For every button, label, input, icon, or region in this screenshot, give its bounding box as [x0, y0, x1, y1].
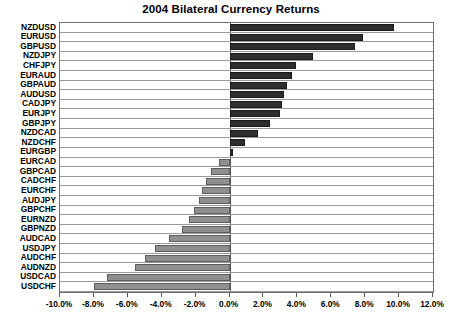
- bar-cadchf: [206, 178, 230, 185]
- currency-returns-chart: 2004 Bilateral Currency Returns NZDUSDEU…: [0, 0, 462, 328]
- bar-audjpy: [199, 197, 230, 204]
- bar-row: [60, 100, 433, 110]
- bar-row: [60, 186, 433, 196]
- bar-row: [60, 129, 433, 139]
- x-label-11: 12.0%: [420, 299, 444, 309]
- bar-chfjpy: [230, 62, 296, 69]
- x-label-6: 2.0%: [253, 299, 272, 309]
- x-tick: [364, 293, 365, 297]
- bar-gbpaud: [230, 82, 288, 89]
- x-tick: [59, 293, 60, 297]
- x-tick: [93, 293, 94, 297]
- x-label-4: -2.0%: [184, 299, 206, 309]
- x-tick: [262, 293, 263, 297]
- bar-euraud: [230, 72, 293, 79]
- bar-row: [60, 206, 433, 216]
- bar-row: [60, 234, 433, 244]
- bar-cadjpy: [230, 101, 283, 108]
- bar-audchf: [145, 255, 230, 262]
- bar-row: [60, 81, 433, 91]
- x-tick: [195, 293, 196, 297]
- bar-row: [60, 61, 433, 71]
- y-axis-labels: NZDUSDEURUSDGBPUSDNZDJPYCHFJPYEURAUDGBPA…: [0, 22, 56, 293]
- bar-nzdjpy: [230, 53, 313, 60]
- bar-row: [60, 282, 433, 292]
- bar-row: [60, 177, 433, 187]
- bar-usdjpy: [155, 245, 230, 252]
- x-label-7: 4.0%: [287, 299, 306, 309]
- bar-row: [60, 71, 433, 81]
- x-label-8: 6.0%: [321, 299, 340, 309]
- bar-row: [60, 148, 433, 158]
- bar-row: [60, 196, 433, 206]
- chart-title: 2004 Bilateral Currency Returns: [0, 3, 462, 15]
- bar-eurusd: [230, 34, 364, 41]
- x-axis-ticks: [59, 293, 434, 298]
- bar-row: [60, 52, 433, 62]
- plot-area: [59, 22, 434, 293]
- bar-usdchf: [94, 283, 230, 290]
- bar-gbpjpy: [230, 120, 271, 127]
- bar-row: [60, 90, 433, 100]
- bar-gbpusd: [230, 43, 355, 50]
- bar-eurcad: [219, 159, 229, 166]
- bar-audcad: [169, 235, 230, 242]
- bar-row: [60, 244, 433, 254]
- x-tick: [229, 293, 230, 297]
- bar-gbpchf: [194, 207, 230, 214]
- x-tick: [398, 293, 399, 297]
- x-tick: [296, 293, 297, 297]
- x-label-0: -10.0%: [46, 299, 73, 309]
- bar-row: [60, 42, 433, 52]
- x-label-3: -4.0%: [150, 299, 172, 309]
- bar-row: [60, 158, 433, 168]
- bar-eurjpy: [230, 110, 281, 117]
- bar-row: [60, 167, 433, 177]
- bar-row: [60, 273, 433, 283]
- x-axis-labels: -10.0%-8.0%-6.0%-4.0%-2.0%0.0%2.0%4.0%6.…: [0, 299, 462, 313]
- x-tick: [161, 293, 162, 297]
- bar-nzdchf: [230, 139, 245, 146]
- x-label-10: 10.0%: [386, 299, 410, 309]
- bar-row: [60, 119, 433, 129]
- bar-audusd: [230, 91, 284, 98]
- x-label-2: -6.0%: [116, 299, 138, 309]
- bar-row: [60, 138, 433, 148]
- x-label-1: -8.0%: [82, 299, 104, 309]
- bar-row: [60, 109, 433, 119]
- bar-gbpcad: [211, 168, 230, 175]
- bar-row: [60, 215, 433, 225]
- x-label-9: 8.0%: [355, 299, 374, 309]
- bar-row: [60, 225, 433, 235]
- bar-nzdusd: [230, 24, 394, 31]
- x-label-5: 0.0%: [219, 299, 238, 309]
- bar-eurgbp: [230, 149, 233, 156]
- bar-nzdcad: [230, 130, 259, 137]
- bar-row: [60, 254, 433, 264]
- bar-eurnzd: [189, 216, 230, 223]
- x-tick: [432, 293, 433, 297]
- x-tick: [330, 293, 331, 297]
- bar-row: [60, 263, 433, 273]
- bar-gbpnzd: [182, 226, 229, 233]
- y-label-usdchf: USDCHF: [0, 281, 56, 291]
- bar-eurchf: [202, 187, 229, 194]
- bar-row: [60, 33, 433, 43]
- bar-usdcad: [107, 274, 229, 281]
- bar-row: [60, 23, 433, 33]
- bar-audnzd: [135, 264, 230, 271]
- x-tick: [127, 293, 128, 297]
